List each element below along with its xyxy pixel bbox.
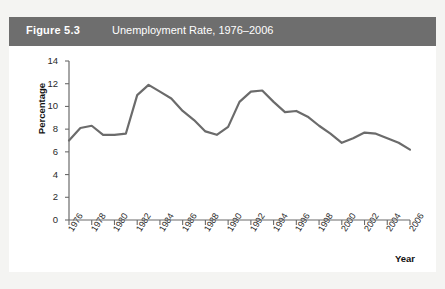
axis-tick-marks — [65, 61, 410, 225]
figure-container: Figure 5.3 Unemployment Rate, 1976–2006 … — [0, 0, 445, 289]
line-plot — [0, 0, 445, 289]
chart-area: Percentage Year 02468101214 197619781980… — [0, 0, 445, 289]
unemployment-rate-line — [69, 85, 410, 150]
axis-lines — [69, 61, 410, 220]
